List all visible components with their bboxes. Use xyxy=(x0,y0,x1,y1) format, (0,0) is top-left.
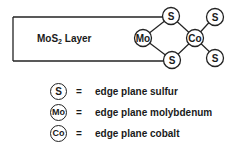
legend-description: edge plane sulfur xyxy=(95,83,178,100)
atom-co: Co xyxy=(187,30,204,47)
equals-sign: = xyxy=(76,104,82,121)
svg-text:S: S xyxy=(169,55,176,66)
legend-description: edge plane cobalt xyxy=(95,125,179,142)
legend-item-molybdenum: Mo = edge plane molybdenum xyxy=(0,104,234,124)
svg-text:S: S xyxy=(168,11,175,22)
svg-text:S: S xyxy=(212,53,219,64)
equals-sign: = xyxy=(76,83,82,100)
svg-text:Co: Co xyxy=(188,33,201,44)
legend-description: edge plane molybdenum xyxy=(95,104,212,121)
sulfur-symbol-icon: S xyxy=(50,83,67,100)
cobalt-symbol-icon: Co xyxy=(50,125,67,142)
atom-s-bottom: S xyxy=(164,52,181,69)
svg-text:S: S xyxy=(212,12,219,23)
legend-item-sulfur: S = edge plane sulfur xyxy=(0,83,234,103)
atom-s-top-right: S xyxy=(207,9,224,26)
equals-sign: = xyxy=(76,125,82,142)
bonds xyxy=(143,16,215,60)
atom-s-bottom-right: S xyxy=(207,50,224,67)
atom-s-top: S xyxy=(163,8,180,25)
atom-mo: Mo xyxy=(135,30,152,47)
molybdenum-symbol-icon: Mo xyxy=(50,104,67,121)
mos2-layer-label: MoS2 Layer xyxy=(37,33,92,45)
legend-item-cobalt: Co = edge plane cobalt xyxy=(0,125,234,145)
svg-text:Mo: Mo xyxy=(136,33,150,44)
